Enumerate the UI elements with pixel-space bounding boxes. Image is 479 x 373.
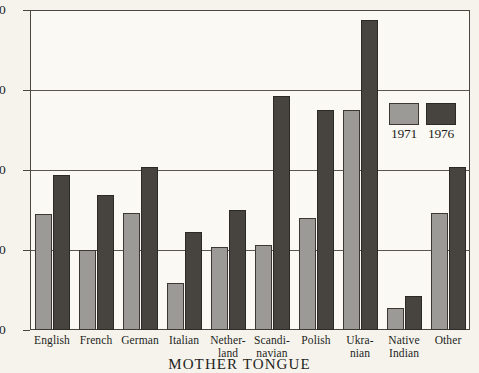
x-tick-label-3: Italian xyxy=(162,334,206,347)
y-tick-mark-20 xyxy=(23,170,30,171)
x-tick-label-6: Polish xyxy=(294,334,338,347)
bar-1971-Other xyxy=(431,213,448,330)
bar-1976-French xyxy=(97,195,114,330)
y-tick-mark-0 xyxy=(23,330,30,331)
x-tick-label-2: German xyxy=(118,334,162,347)
y-tick-mark-30 xyxy=(23,90,30,91)
y-tick-mark-10 xyxy=(23,250,30,251)
y-tick-label-20: 20 xyxy=(0,163,6,177)
legend-label-1971: 1971 xyxy=(389,127,419,142)
bar-1971-NativeIndian xyxy=(387,308,404,330)
bar-1976-Netherland xyxy=(229,210,246,330)
y-tick-mark-40 xyxy=(23,10,30,11)
y-tick-label-40: 40 xyxy=(0,3,6,17)
bar-1971-Ukranian xyxy=(343,110,360,330)
bar-1976-NativeIndian xyxy=(405,296,422,330)
bar-1976-Ukranian xyxy=(361,20,378,330)
legend: 1971 1976 xyxy=(389,103,465,142)
bar-series-layer xyxy=(30,10,470,330)
bar-1971-German xyxy=(123,213,140,330)
bar-1971-Italian xyxy=(167,283,184,330)
y-tick-label-10: 10 xyxy=(0,243,6,257)
x-tick-label-1: French xyxy=(74,334,118,347)
bar-1976-German xyxy=(141,167,158,330)
bar-1971-Scandinavian xyxy=(255,245,272,330)
legend-swatch-1976 xyxy=(426,103,456,125)
y-tick-label-0: 0 xyxy=(0,323,6,337)
x-tick-label-0: English xyxy=(30,334,74,347)
x-tick-label-9: Other xyxy=(426,334,470,347)
bar-1976-Italian xyxy=(185,232,202,330)
legend-label-1976: 1976 xyxy=(426,127,456,142)
bar-1976-Scandinavian xyxy=(273,96,290,330)
x-axis-title: MOTHER TONGUE xyxy=(0,356,479,373)
bar-1971-Netherland xyxy=(211,247,228,330)
bar-1976-English xyxy=(53,175,70,330)
bar-1971-Polish xyxy=(299,218,316,330)
bar-chart: 010203040 1971 1976 EnglishFrenchGermanI… xyxy=(0,0,479,373)
bar-1971-English xyxy=(35,214,52,330)
bar-1976-Polish xyxy=(317,110,334,330)
bar-1971-French xyxy=(79,250,96,330)
legend-swatch-1971 xyxy=(389,103,419,125)
y-tick-label-30: 30 xyxy=(0,83,6,97)
bar-1976-Other xyxy=(449,167,466,330)
